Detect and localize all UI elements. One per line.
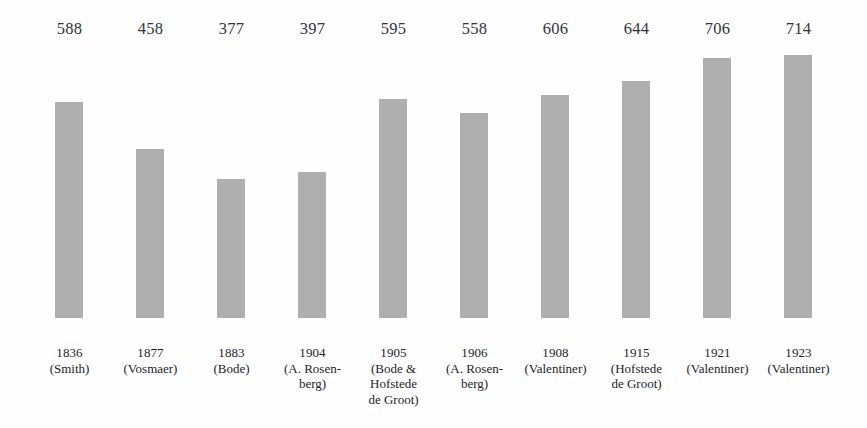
- bar-group: 4581877(Vosmaer): [110, 0, 191, 428]
- category-year: 1836: [27, 345, 112, 361]
- bar-value-label: 606: [515, 19, 596, 39]
- category-source-line: (Bode): [189, 361, 274, 377]
- category-label: 1905(Bode &Hofstedede Groot): [351, 345, 436, 407]
- category-year: 1923: [756, 345, 841, 361]
- category-label: 1877(Vosmaer): [108, 345, 193, 376]
- category-source-line: (Valentiner): [675, 361, 760, 377]
- category-year: 1905: [351, 345, 436, 361]
- bar: [136, 149, 164, 318]
- bar: [784, 55, 812, 318]
- category-source-line: de Groot): [351, 392, 436, 408]
- category-label: 1904(A. Rosen-berg): [270, 345, 355, 392]
- plot-area: 5881836(Smith)4581877(Vosmaer)3771883(Bo…: [0, 0, 867, 428]
- bar-chart: 5881836(Smith)4581877(Vosmaer)3771883(Bo…: [0, 0, 867, 428]
- bar-value-label: 644: [596, 19, 677, 39]
- category-year: 1883: [189, 345, 274, 361]
- category-label: 1915(Hofstedede Groot): [594, 345, 679, 392]
- category-source-line: (Bode &: [351, 361, 436, 377]
- category-source-line: de Groot): [594, 376, 679, 392]
- category-label: 1883(Bode): [189, 345, 274, 376]
- bar: [379, 99, 407, 318]
- bar-group: 7061921(Valentiner): [677, 0, 758, 428]
- bar-value-label: 588: [29, 19, 110, 39]
- bar: [55, 102, 83, 318]
- bar-group: 6441915(Hofstedede Groot): [596, 0, 677, 428]
- bar-group: 3771883(Bode): [191, 0, 272, 428]
- category-source-line: (Vosmaer): [108, 361, 193, 377]
- category-year: 1915: [594, 345, 679, 361]
- category-source-line: (Valentiner): [756, 361, 841, 377]
- category-year: 1921: [675, 345, 760, 361]
- bar-value-label: 377: [191, 19, 272, 39]
- bar: [622, 81, 650, 318]
- category-source-line: (A. Rosen-: [270, 361, 355, 377]
- category-source-line: (Hofstede: [594, 361, 679, 377]
- category-year: 1877: [108, 345, 193, 361]
- bar-group: 5951905(Bode &Hofstedede Groot): [353, 0, 434, 428]
- category-label: 1923(Valentiner): [756, 345, 841, 376]
- bar-group: 5881836(Smith): [29, 0, 110, 428]
- category-source-line: (Smith): [27, 361, 112, 377]
- bar-value-label: 397: [272, 19, 353, 39]
- bar-value-label: 714: [758, 19, 839, 39]
- category-year: 1906: [432, 345, 517, 361]
- category-source-line: berg): [432, 376, 517, 392]
- bar: [541, 95, 569, 318]
- bar-value-label: 558: [434, 19, 515, 39]
- category-source-line: Hofstede: [351, 376, 436, 392]
- bar-group: 3971904(A. Rosen-berg): [272, 0, 353, 428]
- bar: [460, 113, 488, 318]
- bar-group: 7141923(Valentiner): [758, 0, 839, 428]
- bar-group: 6061908(Valentiner): [515, 0, 596, 428]
- category-source-line: (Valentiner): [513, 361, 598, 377]
- category-label: 1908(Valentiner): [513, 345, 598, 376]
- bar-group: 5581906(A. Rosen-berg): [434, 0, 515, 428]
- bar-value-label: 458: [110, 19, 191, 39]
- bar: [703, 58, 731, 318]
- category-label: 1921(Valentiner): [675, 345, 760, 376]
- category-label: 1906(A. Rosen-berg): [432, 345, 517, 392]
- category-source-line: (A. Rosen-: [432, 361, 517, 377]
- bar-value-label: 595: [353, 19, 434, 39]
- category-label: 1836(Smith): [27, 345, 112, 376]
- category-year: 1904: [270, 345, 355, 361]
- bar: [217, 179, 245, 318]
- bar: [298, 172, 326, 318]
- bar-value-label: 706: [677, 19, 758, 39]
- category-source-line: berg): [270, 376, 355, 392]
- category-year: 1908: [513, 345, 598, 361]
